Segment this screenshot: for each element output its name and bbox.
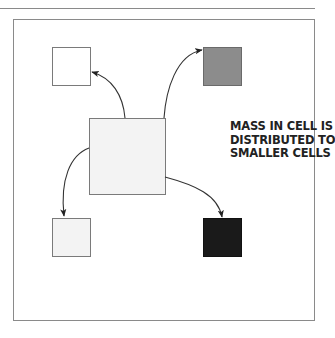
- caption-line-3: SMALLER CELLS: [230, 147, 330, 161]
- cell-bottom-left: [53, 219, 91, 257]
- arrow-to-top-left: [92, 72, 125, 118]
- cell-bottom-right: [204, 219, 242, 257]
- caption-line-2: DISTRIBUTED TO: [230, 134, 330, 148]
- cell-parent: [90, 119, 166, 195]
- cell-top-right: [204, 48, 242, 86]
- cell-top-left: [53, 48, 91, 86]
- caption: MASS IN CELL IS DISTRIBUTED TO SMALLER C…: [230, 120, 330, 161]
- arrow-to-bottom-right: [165, 177, 222, 217]
- arrow-to-bottom-left: [63, 148, 89, 216]
- arrow-to-top-right: [164, 50, 202, 118]
- caption-line-1: MASS IN CELL IS: [230, 120, 330, 134]
